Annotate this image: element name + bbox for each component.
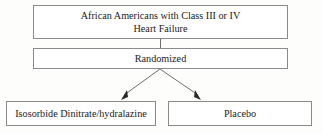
arrowhead-control-icon: [194, 90, 201, 100]
edge-randomized-to-control: [160, 69, 198, 95]
node-control-arm: Placebo: [168, 101, 312, 126]
node-treatment-arm-label: Isosorbide Dinitrate/hydralazine: [15, 107, 147, 120]
arrowhead-treatment-icon: [121, 90, 128, 100]
node-treatment-arm: Isosorbide Dinitrate/hydralazine: [6, 101, 156, 126]
flowchart-diagram: African Americans with Class III or IV H…: [0, 0, 323, 134]
node-study-population-label: African Americans with Class III or IV H…: [81, 9, 241, 35]
node-study-population: African Americans with Class III or IV H…: [33, 5, 288, 39]
node-randomized-label: Randomized: [135, 52, 187, 65]
node-randomized: Randomized: [33, 48, 288, 69]
edge-randomized-to-treatment: [124, 69, 160, 95]
node-control-arm-label: Placebo: [224, 107, 256, 120]
